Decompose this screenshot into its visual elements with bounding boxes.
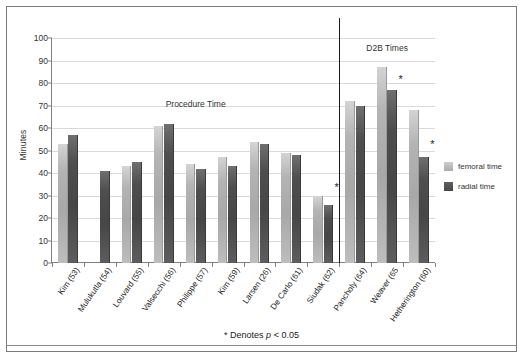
- y-tick-mark: [48, 60, 52, 61]
- bar-femoral: [186, 164, 196, 263]
- bar-femoral: [122, 166, 132, 263]
- legend-label-radial: radial time: [458, 182, 495, 191]
- chart-figure: Minutes 1009080706050403020100 ***Proced…: [0, 0, 523, 358]
- legend-item-radial: radial time: [444, 182, 502, 191]
- gridline: [52, 38, 435, 39]
- y-tick-label: 100: [24, 33, 48, 43]
- significance-asterisk: *: [430, 139, 434, 150]
- y-tick-label: 80: [24, 78, 48, 88]
- bar-femoral: [218, 157, 228, 263]
- y-tick-mark: [48, 105, 52, 106]
- bar-radial: [164, 124, 174, 264]
- footnote: * Denotes p < 0.05: [0, 330, 523, 340]
- bar-femoral: [154, 126, 164, 263]
- y-tick-mark: [48, 195, 52, 196]
- x-axis-labels: Kim (53)Mulukutla (54)Louvard (55)Valsec…: [52, 266, 435, 267]
- y-tick-mark: [48, 38, 52, 39]
- plot-area: ***Procedure TimeD2B Times: [52, 38, 435, 263]
- bar-radial: [228, 166, 238, 263]
- footnote-before: * Denotes: [224, 330, 266, 340]
- section-label: D2B Times: [366, 43, 408, 53]
- legend-label-femoral: femoral time: [458, 162, 502, 171]
- bar-femoral: [58, 144, 68, 263]
- y-tick-label: 20: [24, 213, 48, 223]
- bar-femoral: [409, 110, 419, 263]
- significance-asterisk: *: [398, 74, 402, 85]
- legend-swatch-femoral: [444, 162, 453, 171]
- significance-asterisk: *: [335, 182, 339, 193]
- bar-femoral: [377, 67, 387, 263]
- footnote-after: < 0.05: [271, 330, 299, 340]
- bar-radial: [387, 90, 397, 263]
- y-axis-ticks: 1009080706050403020100: [22, 0, 48, 358]
- y-tick-label: 90: [24, 56, 48, 66]
- bar-radial: [419, 157, 429, 263]
- y-tick-mark: [48, 218, 52, 219]
- bar-radial: [100, 171, 110, 263]
- bar-radial: [292, 155, 302, 263]
- y-tick-label: 40: [24, 168, 48, 178]
- y-tick-label: 0: [24, 258, 48, 268]
- bar-femoral: [345, 101, 355, 263]
- bar-femoral: [281, 153, 291, 263]
- y-tick-mark: [48, 173, 52, 174]
- gridline: [52, 61, 435, 62]
- y-tick-label: 60: [24, 123, 48, 133]
- y-tick-label: 70: [24, 101, 48, 111]
- y-tick-mark: [48, 83, 52, 84]
- bar-radial: [356, 106, 366, 264]
- y-tick-mark: [48, 150, 52, 151]
- y-tick-mark: [48, 240, 52, 241]
- bar-radial: [324, 205, 334, 264]
- legend-item-femoral: femoral time: [444, 162, 502, 171]
- y-tick-mark: [48, 128, 52, 129]
- bar-femoral: [250, 142, 260, 264]
- y-tick-label: 50: [24, 146, 48, 156]
- footnote-separator: [7, 345, 516, 346]
- x-tick-mark: [435, 263, 436, 267]
- bar-femoral: [313, 196, 323, 264]
- bar-radial: [260, 144, 270, 263]
- y-tick-mark: [48, 263, 52, 264]
- bar-radial: [196, 169, 206, 264]
- bar-radial: [68, 135, 78, 263]
- legend: femoral time radial time: [444, 162, 502, 202]
- y-tick-label: 10: [24, 236, 48, 246]
- legend-swatch-radial: [444, 182, 453, 191]
- y-tick-label: 30: [24, 191, 48, 201]
- section-label: Procedure Time: [166, 99, 226, 109]
- bar-radial: [132, 162, 142, 263]
- section-divider: [339, 18, 340, 263]
